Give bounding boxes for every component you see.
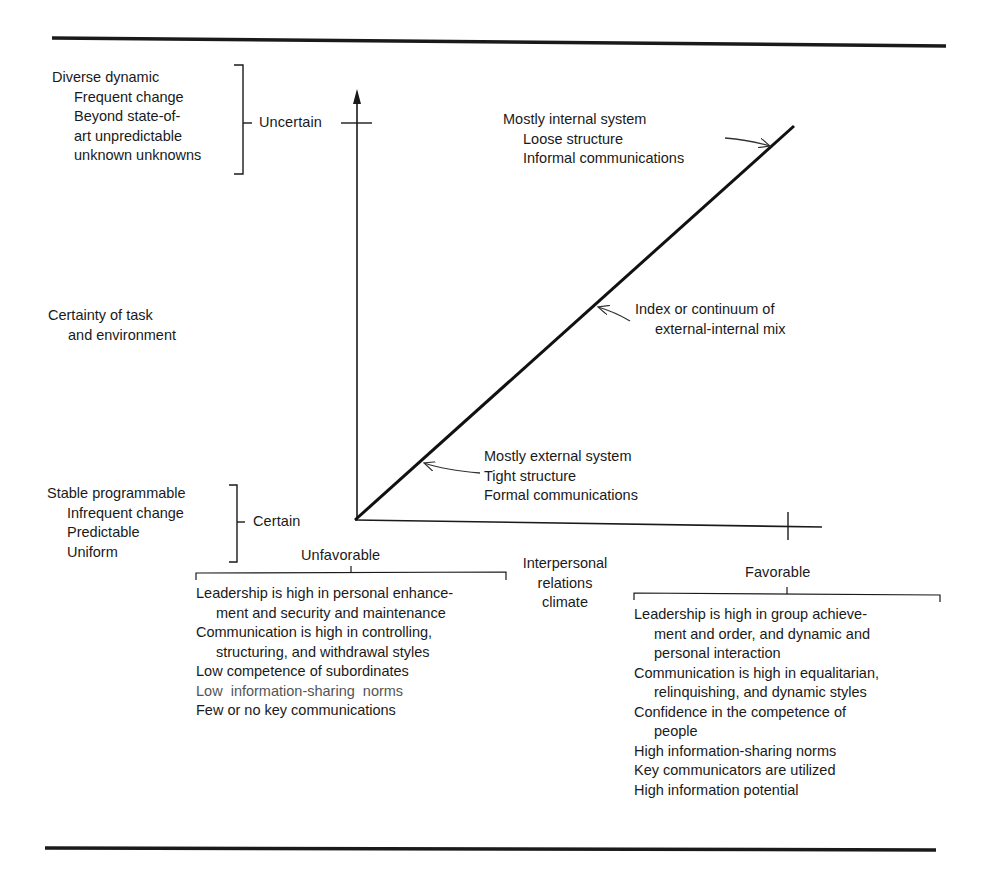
characteristic: Key communicators are utilized: [634, 761, 879, 781]
descriptor: Infrequent change: [47, 504, 186, 524]
unfavorable-label: Unfavorable: [301, 546, 380, 565]
middle-annotation: Index or continuum of external-internal …: [635, 300, 786, 339]
characteristic: High information potential: [634, 781, 879, 801]
top-rule: [52, 38, 946, 46]
descriptor: Uniform: [47, 543, 186, 563]
characteristic: relinquishing, and dynamic styles: [634, 683, 879, 703]
characteristic: people: [634, 722, 879, 742]
characteristic: Communication is high in equalitarian,: [634, 664, 879, 684]
certain-label: Certain: [253, 512, 300, 531]
unfavorable-characteristics: Leadership is high in personal enhance- …: [196, 584, 453, 721]
axis-label-line: climate: [510, 593, 620, 613]
descriptor: Stable programmable: [47, 484, 186, 504]
annotation-line: Informal communications: [503, 149, 684, 169]
vertical-axis-label: Certainty of task and environment: [48, 306, 176, 345]
characteristic: ment and order, and dynamic and: [634, 625, 879, 645]
characteristic: Low competence of subordinates: [196, 662, 453, 682]
characteristic: Few or no key communications: [196, 701, 453, 721]
annotation-line: external-internal mix: [635, 320, 786, 340]
annotation-line: Index or continuum of: [635, 300, 786, 320]
descriptor: unknown unknowns: [52, 146, 201, 166]
descriptor: Predictable: [47, 523, 186, 543]
characteristic: Leadership is high in personal enhance-: [196, 584, 453, 604]
annotation-line: Mostly external system: [484, 447, 638, 467]
axis-label-line: and environment: [48, 326, 176, 346]
characteristic: Confidence in the competence of: [634, 703, 879, 723]
descriptor: art unpredictable: [52, 127, 201, 147]
bottom-annotation: Mostly external system Tight structure F…: [484, 447, 638, 506]
uncertain-label: Uncertain: [259, 113, 322, 132]
characteristic: Communication is high in controlling,: [196, 623, 453, 643]
characteristic: personal interaction: [634, 644, 879, 664]
certain-descriptors: Stable programmable Infrequent change Pr…: [47, 484, 186, 562]
characteristic: Low information-sharing norms: [196, 682, 453, 702]
characteristic: Leadership is high in group achieve-: [634, 605, 879, 625]
favorable-characteristics: Leadership is high in group achieve- men…: [634, 605, 879, 800]
descriptor: Frequent change: [52, 88, 201, 108]
horizontal-axis-label: Interpersonal relations climate: [510, 554, 620, 613]
horizontal-axis: [355, 520, 822, 527]
descriptor: Beyond state-of-: [52, 107, 201, 127]
axis-label-line: Interpersonal: [510, 554, 620, 574]
annotation-line: Mostly internal system: [503, 110, 684, 130]
characteristic: structuring, and withdrawal styles: [196, 643, 453, 663]
axis-label-line: Certainty of task: [48, 306, 176, 326]
characteristic: ment and security and maintenance: [196, 604, 453, 624]
favorable-label: Favorable: [745, 563, 810, 582]
annotation-line: Formal communications: [484, 486, 638, 506]
top-annotation: Mostly internal system Loose structure I…: [503, 110, 684, 169]
descriptor: Diverse dynamic: [52, 68, 201, 88]
uncertain-descriptors: Diverse dynamic Frequent change Beyond s…: [52, 68, 201, 166]
axis-label-line: relations: [510, 574, 620, 594]
bottom-rule: [45, 848, 936, 850]
annotation-line: Loose structure: [503, 130, 684, 150]
characteristic: High information-sharing norms: [634, 742, 879, 762]
annotation-line: Tight structure: [484, 467, 638, 487]
